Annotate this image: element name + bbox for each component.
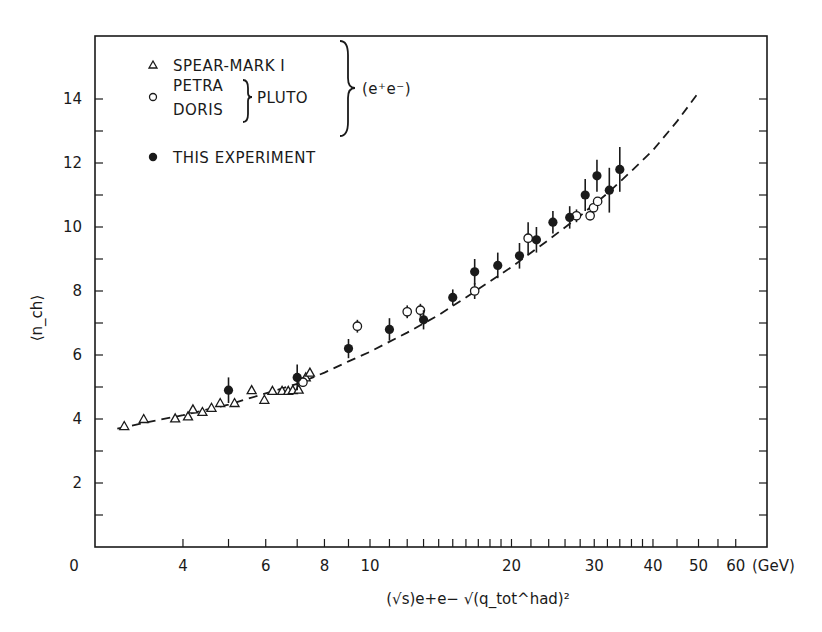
pluto-open-circle-point	[470, 287, 478, 295]
spear-triangle-point	[268, 386, 277, 394]
this-experiment-point	[592, 171, 601, 180]
x-tick-label: 10	[360, 557, 379, 575]
fit-curve	[117, 93, 698, 429]
this-experiment-point	[493, 261, 502, 270]
pluto-open-circle-point	[353, 322, 361, 330]
x-tick-label: 40	[643, 557, 662, 575]
spear-triangle-point	[305, 368, 314, 376]
y-tick-label: 2	[72, 474, 82, 492]
this-experiment-point	[470, 267, 479, 276]
spear-triangle-point	[247, 386, 256, 394]
legend-filled-circle-marker	[149, 153, 157, 161]
fit-curve-group	[117, 93, 698, 429]
this-experiment-point	[615, 165, 624, 174]
x-axis: 468102030405060	[178, 539, 745, 575]
y-axis-title-text: ⟨n_ch⟩	[28, 295, 47, 341]
y-tick-label: 14	[63, 90, 82, 108]
x-axis-title-text: (√s)e+e− √(q_tot^had)²	[386, 590, 569, 609]
x-tick-label: 8	[320, 557, 330, 575]
legend-label-this-experiment: THIS EXPERIMENT	[172, 149, 316, 167]
legend: SPEAR-MARK I PETRA DORIS PLUTO THIS EXPE…	[149, 41, 411, 167]
this-experiment-point	[344, 344, 353, 353]
spear-triangle-point	[188, 405, 197, 413]
x-tick-label: 4	[178, 557, 188, 575]
ee-brace	[340, 41, 355, 136]
this-experiment-point	[565, 213, 574, 222]
data-points	[120, 147, 625, 430]
pluto-open-circle-point	[586, 212, 594, 220]
origin-label: 0	[69, 557, 79, 575]
spear-triangle-point	[171, 414, 180, 422]
spear-triangle-point	[260, 395, 269, 403]
legend-triangle-marker	[149, 61, 157, 68]
spear-triangle-point	[120, 422, 129, 430]
y-axis: 2468101214	[63, 90, 767, 515]
spear-triangle-point	[139, 415, 148, 423]
legend-label-petra: PETRA	[173, 77, 224, 95]
this-experiment-point	[581, 190, 590, 199]
multiplicity-chart: 2468101214 468102030405060 SPEAR-MARK I …	[0, 0, 822, 632]
pluto-open-circle-point	[593, 197, 601, 205]
this-experiment-point	[419, 315, 428, 324]
this-experiment-point	[532, 235, 541, 244]
x-tick-label: 20	[502, 557, 521, 575]
y-tick-label: 8	[72, 282, 82, 300]
this-experiment-point	[293, 373, 302, 382]
pluto-open-circle-point	[524, 234, 532, 242]
pluto-brace	[243, 80, 252, 122]
y-tick-label: 10	[63, 218, 82, 236]
this-experiment-point	[515, 251, 524, 260]
legend-open-circle-marker	[150, 94, 157, 101]
this-experiment-point	[605, 186, 614, 195]
legend-label-doris: DORIS	[173, 101, 223, 119]
x-tick-label: 60	[726, 557, 745, 575]
y-axis-title: ⟨n_ch⟩	[28, 295, 47, 341]
spear-triangle-point	[216, 399, 225, 407]
y-tick-label: 12	[63, 154, 82, 172]
legend-label-pluto: PLUTO	[257, 89, 308, 107]
y-tick-label: 4	[72, 410, 82, 428]
x-tick-label: 6	[261, 557, 271, 575]
this-experiment-point	[448, 293, 457, 302]
x-tick-label: 50	[689, 557, 708, 575]
legend-label-ee: (e⁺e⁻)	[362, 80, 411, 98]
legend-label-spear: SPEAR-MARK I	[173, 57, 285, 75]
this-experiment-point	[385, 325, 394, 334]
spear-triangle-point	[207, 403, 216, 411]
x-axis-unit: (GeV)	[752, 557, 795, 575]
this-experiment-point	[548, 218, 557, 227]
pluto-open-circle-point	[403, 308, 411, 316]
this-experiment-point	[224, 386, 233, 395]
x-tick-label: 30	[585, 557, 604, 575]
y-tick-label: 6	[72, 346, 82, 364]
